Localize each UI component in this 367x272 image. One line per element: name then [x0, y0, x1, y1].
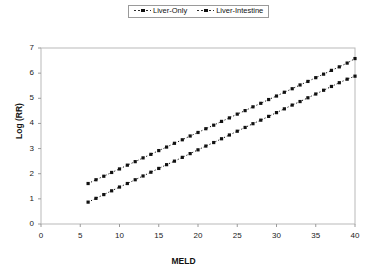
data-point — [291, 103, 294, 106]
data-point — [298, 100, 301, 103]
data-point — [141, 156, 144, 159]
data-point — [196, 131, 199, 134]
data-point — [220, 137, 223, 140]
x-tick-label: 35 — [304, 232, 328, 240]
data-point — [110, 171, 113, 174]
data-point — [118, 167, 121, 170]
data-point — [306, 80, 309, 83]
legend-marker-icon — [134, 7, 151, 14]
x-tick-label: 30 — [265, 232, 289, 240]
data-point — [228, 116, 231, 119]
data-point — [251, 105, 254, 108]
y-tick-label: 2 — [14, 170, 34, 178]
data-point — [189, 134, 192, 137]
data-point — [157, 149, 160, 152]
data-point — [196, 148, 199, 151]
data-point — [102, 193, 105, 196]
data-point — [149, 153, 152, 156]
data-point — [181, 156, 184, 159]
data-point — [87, 201, 90, 204]
data-point — [283, 107, 286, 110]
data-point — [338, 65, 341, 68]
data-point — [275, 94, 278, 97]
data-point — [149, 171, 152, 174]
data-point — [330, 85, 333, 88]
legend-item-liver-only: Liver-Only — [134, 7, 187, 15]
data-point — [275, 111, 278, 114]
data-point — [236, 130, 239, 133]
data-point — [283, 91, 286, 94]
legend-marker-icon — [197, 7, 214, 14]
legend-label: Liver-Intestine — [216, 7, 263, 15]
data-point — [181, 138, 184, 141]
y-tick-label: 0 — [14, 220, 34, 228]
data-point — [346, 78, 349, 81]
data-point — [126, 164, 129, 167]
data-point — [353, 75, 356, 78]
data-point — [134, 178, 137, 181]
data-point — [87, 182, 90, 185]
data-point — [338, 81, 341, 84]
data-point — [322, 89, 325, 92]
data-point — [330, 69, 333, 72]
plot-frame — [41, 48, 355, 224]
data-point — [244, 126, 247, 129]
y-tick-label: 3 — [14, 145, 34, 153]
data-point — [220, 120, 223, 123]
data-point — [157, 167, 160, 170]
data-point — [134, 160, 137, 163]
data-point — [110, 189, 113, 192]
x-tick-label: 20 — [186, 232, 210, 240]
data-point — [353, 57, 356, 60]
data-point — [204, 144, 207, 147]
x-tick-label: 25 — [225, 232, 249, 240]
y-tick-label: 1 — [14, 195, 34, 203]
y-tick-label: 5 — [14, 94, 34, 102]
data-point — [141, 174, 144, 177]
chart-legend: Liver-Only Liver-Intestine — [128, 5, 269, 18]
data-point — [346, 61, 349, 64]
data-point — [251, 122, 254, 125]
legend-item-liver-intestine: Liver-Intestine — [197, 7, 263, 15]
legend-label: Liver-Only — [153, 7, 187, 15]
data-point — [306, 96, 309, 99]
data-point — [267, 115, 270, 118]
data-point — [165, 145, 168, 148]
x-tick-label: 10 — [108, 232, 132, 240]
x-axis-title: MELD — [0, 256, 367, 266]
y-tick-label: 6 — [14, 69, 34, 77]
data-point — [322, 73, 325, 76]
data-point — [94, 197, 97, 200]
data-point — [291, 87, 294, 90]
chart-figure: Liver-Only Liver-Intestine Log (RR) MELD… — [0, 0, 367, 272]
data-point — [236, 113, 239, 116]
data-point — [173, 142, 176, 145]
data-point — [173, 160, 176, 163]
x-tick-label: 5 — [68, 232, 92, 240]
data-point — [267, 98, 270, 101]
y-tick-label: 4 — [14, 119, 34, 127]
data-point — [259, 102, 262, 105]
data-point — [212, 141, 215, 144]
data-point — [314, 92, 317, 95]
data-point — [228, 133, 231, 136]
data-point — [165, 163, 168, 166]
data-point — [259, 119, 262, 122]
data-point — [244, 109, 247, 112]
data-point — [189, 152, 192, 155]
data-point — [118, 185, 121, 188]
x-tick-label: 15 — [147, 232, 171, 240]
data-point — [94, 178, 97, 181]
data-point — [126, 182, 129, 185]
data-point — [102, 175, 105, 178]
y-tick-label: 7 — [14, 44, 34, 52]
data-point — [298, 83, 301, 86]
x-tick-label: 40 — [343, 232, 367, 240]
data-point — [314, 76, 317, 79]
x-tick-label: 0 — [29, 232, 53, 240]
data-point — [204, 127, 207, 130]
data-point — [212, 124, 215, 127]
